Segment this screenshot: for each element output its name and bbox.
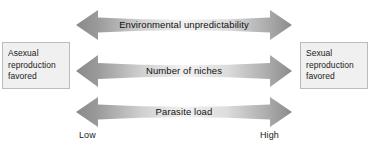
sexual-outcome-line-3: favored — [306, 71, 367, 83]
double-headed-arrow-icon — [76, 9, 292, 41]
asexual-outcome-line-3: favored — [8, 71, 69, 83]
axis-label-low: Low — [79, 130, 96, 140]
sexual-outcome-box: Sexual reproduction favored — [300, 42, 368, 89]
sexual-outcome-line-1: Sexual — [306, 48, 367, 60]
double-headed-arrow-icon — [76, 54, 292, 88]
gradient-arrow-number-of-niches: Number of niches — [76, 54, 292, 88]
axis-label-high: High — [260, 130, 279, 140]
gradient-arrow-environmental-unpredictability: Environmental unpredictability — [76, 9, 292, 41]
asexual-outcome-box: Asexual reproduction favored — [2, 42, 70, 89]
double-headed-arrow-icon — [76, 96, 292, 128]
asexual-outcome-line-1: Asexual — [8, 48, 69, 60]
gradient-arrow-parasite-load: Parasite load — [76, 96, 292, 128]
sexual-outcome-line-2: reproduction — [306, 60, 367, 72]
asexual-outcome-line-2: reproduction — [8, 60, 69, 72]
diagram-canvas: Asexual reproduction favored Sexual repr… — [0, 0, 369, 149]
